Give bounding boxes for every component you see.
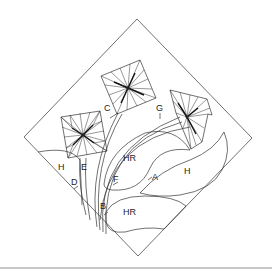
flower-left xyxy=(61,111,107,158)
block-outline xyxy=(24,19,252,256)
piece-labels: C G H E D F HR A H B HR xyxy=(58,103,191,217)
label-h-left: H xyxy=(58,162,65,172)
label-g: G xyxy=(156,103,163,113)
label-b: B xyxy=(100,201,106,211)
label-hr-bottom: HR xyxy=(123,207,136,217)
label-f: F xyxy=(113,174,119,184)
footer-divider xyxy=(0,267,272,269)
flower-right xyxy=(170,90,212,149)
label-e: E xyxy=(81,162,87,172)
label-a: A xyxy=(152,172,158,182)
leaf-hr-bottom xyxy=(106,196,186,232)
quilt-block-diagram: C G H E D F HR A H B HR xyxy=(0,0,272,273)
label-hr-top: HR xyxy=(123,153,136,163)
label-d: D xyxy=(71,177,78,187)
label-c: C xyxy=(104,103,111,113)
label-h-right: H xyxy=(184,166,191,176)
